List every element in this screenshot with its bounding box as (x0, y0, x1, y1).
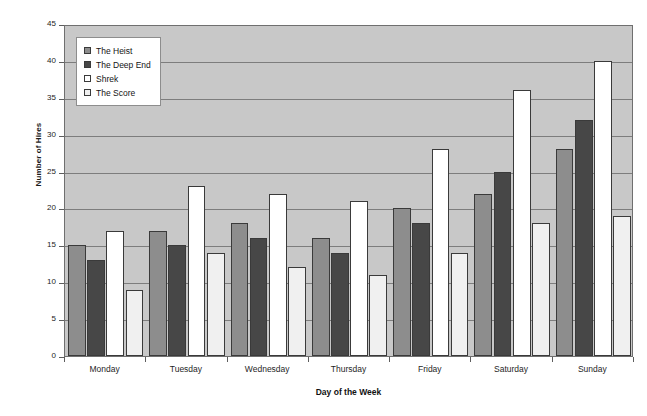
y-tick-label: 45 (22, 19, 56, 28)
bar (369, 275, 387, 356)
legend-swatch-icon (84, 75, 91, 82)
bar (494, 172, 512, 356)
bar (168, 245, 186, 356)
legend-label: The Heist (96, 46, 132, 56)
legend-swatch-icon (84, 61, 91, 68)
legend-label: The Score (96, 88, 135, 98)
bar (474, 194, 492, 356)
y-tick-label: 0 (22, 351, 56, 360)
legend-swatch-icon (84, 47, 91, 54)
y-tick-label: 35 (22, 93, 56, 102)
x-tick-mark (470, 357, 471, 362)
gridline (65, 136, 632, 137)
x-tick-label: Monday (90, 364, 120, 374)
bar (231, 223, 249, 356)
bar (68, 245, 86, 356)
x-tick-mark (145, 357, 146, 362)
gridline (65, 173, 632, 174)
bar (331, 253, 349, 356)
x-axis-title: Day of the Week (64, 387, 633, 397)
bar (87, 260, 105, 356)
x-tick-label: Sunday (578, 364, 607, 374)
bar (594, 61, 612, 356)
x-tick-label: Friday (418, 364, 442, 374)
legend-label: Shrek (96, 74, 118, 84)
bar (106, 231, 124, 356)
legend-item: The Heist (84, 44, 151, 57)
gridline (65, 209, 632, 210)
bar (613, 216, 631, 356)
chart-legend: The HeistThe Deep EndShrekThe Score (76, 37, 161, 106)
legend-label: The Deep End (96, 60, 151, 70)
x-tick-mark (227, 357, 228, 362)
x-tick-label: Thursday (331, 364, 366, 374)
bar (532, 223, 550, 356)
bar (575, 120, 593, 356)
bar (393, 208, 411, 356)
bar (432, 149, 450, 356)
legend-item: Shrek (84, 72, 151, 85)
bar (250, 238, 268, 356)
y-tick-label: 15 (22, 240, 56, 249)
x-tick-mark (389, 357, 390, 362)
legend-item: The Deep End (84, 58, 151, 71)
bar (451, 253, 469, 356)
y-tick-label: 10 (22, 277, 56, 286)
bar (350, 201, 368, 356)
x-tick-mark (64, 357, 65, 362)
y-tick-label: 30 (22, 130, 56, 139)
x-tick-label: Wednesday (245, 364, 290, 374)
legend-item: The Score (84, 86, 151, 99)
y-tick-label: 5 (22, 314, 56, 323)
y-tick-label: 40 (22, 56, 56, 65)
bar (188, 186, 206, 356)
x-tick-label: Tuesday (170, 364, 202, 374)
bar (269, 194, 287, 356)
x-tick-mark (308, 357, 309, 362)
bar (207, 253, 225, 356)
y-tick-label: 20 (22, 203, 56, 212)
bar (126, 290, 144, 356)
bar (556, 149, 574, 356)
bar (513, 90, 531, 356)
bar-chart: Number of Hires 051015202530354045 Monda… (0, 0, 647, 416)
x-tick-mark (633, 357, 634, 362)
x-tick-mark (552, 357, 553, 362)
bar (149, 231, 167, 356)
x-tick-label: Saturday (494, 364, 528, 374)
y-tick-label: 25 (22, 167, 56, 176)
legend-swatch-icon (84, 89, 91, 96)
bar (412, 223, 430, 356)
bar (312, 238, 330, 356)
bar (288, 267, 306, 356)
